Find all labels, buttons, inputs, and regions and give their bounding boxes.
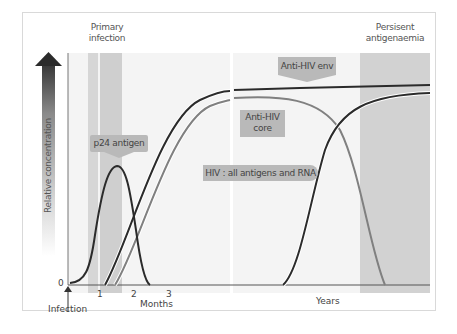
y-zero-tick: 0 [58,278,64,288]
persistent-line1: Persisent [360,22,430,33]
months-label: Months [140,299,173,309]
anti-hiv-env-label: Anti-HIV env [278,57,336,75]
x-tick-3: 3 [166,289,172,299]
primary-infection-label: Primary infection [82,22,132,44]
anti-hiv-core-line1: Anti-HIV [240,112,285,123]
x-tick-2: 2 [131,289,137,299]
y-axis-label: Relative concentration [43,101,54,231]
persistent-band [360,53,430,293]
concentration-arrow-head [35,52,62,66]
primary-infection-line2: infection [82,33,132,44]
anti-hiv-core-line2: core [240,123,285,134]
infection-label: Infection [48,304,87,314]
persistent-line2: antigenaemia [360,33,430,44]
p24-antigen-label: p24 antigen [90,135,148,152]
x-tick-1: 1 [97,289,103,299]
primary-infection-line1: Primary [82,22,132,33]
persistent-antigenaemia-label: Persisent antigenaemia [360,22,430,44]
anti-hiv-core-label: Anti-HIV core [240,110,285,137]
hiv-all-antigens-label: HIV : all antigens and RNA [203,165,318,181]
primary-band-1 [88,53,98,293]
years-label: Years [316,296,340,306]
